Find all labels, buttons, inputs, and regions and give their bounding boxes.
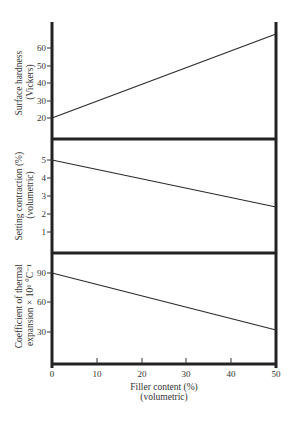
ytick-label: 60 xyxy=(37,43,47,53)
thermal-expansion-line xyxy=(52,273,276,330)
bottom-panel-ylabel: Coefficient of thermal expansion × 10⁶ °… xyxy=(14,262,35,349)
xtick-label: 10 xyxy=(93,369,103,379)
ytick-label: 20 xyxy=(37,113,47,123)
bottom-panel-yticks: 90 60 30 xyxy=(37,268,52,337)
hardness-line xyxy=(52,34,276,118)
chart-canvas: 60 50 40 30 20 Surface hardness (Vickers… xyxy=(0,0,291,422)
ytick-label: 60 xyxy=(37,297,47,307)
ytick-label: 4 xyxy=(42,173,47,183)
ytick-label: 90 xyxy=(37,268,47,278)
ytick-label: 1 xyxy=(42,227,47,237)
xtick-label: 50 xyxy=(272,369,282,379)
middle-panel-yticks: 5 4 3 2 1 xyxy=(42,155,53,237)
ytick-label: 50 xyxy=(37,61,47,71)
ytick-label: 30 xyxy=(37,96,47,106)
middle-panel-ylabel: Setting contraction (%) (volumetric) xyxy=(14,149,36,240)
ytick-label: 5 xyxy=(42,155,47,165)
xtick-label: 0 xyxy=(50,369,55,379)
ytick-label: 40 xyxy=(37,78,47,88)
xaxis-ticks: 0 10 20 30 40 50 xyxy=(50,358,281,379)
contraction-line xyxy=(52,160,276,207)
xtick-label: 30 xyxy=(182,369,192,379)
ytick-label: 30 xyxy=(37,327,47,337)
xaxis-label-sub: (volumetric) xyxy=(140,392,187,403)
ytick-label: 2 xyxy=(42,209,47,219)
xtick-label: 40 xyxy=(227,369,237,379)
ytick-label: 3 xyxy=(42,191,47,201)
top-panel-yticks: 60 50 40 30 20 xyxy=(37,43,52,123)
xtick-label: 20 xyxy=(138,369,148,379)
top-panel-ylabel: Surface hardness (Vickers) xyxy=(14,48,36,115)
